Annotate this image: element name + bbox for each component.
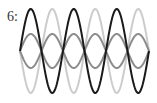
wave-black-large — [20, 9, 149, 93]
sine-waves-diagram — [0, 0, 157, 103]
